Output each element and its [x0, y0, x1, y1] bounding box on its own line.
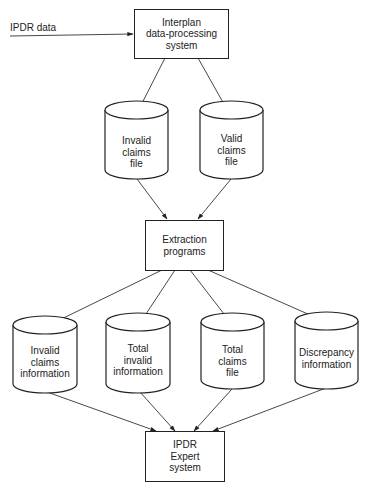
- cylinder-discrepancy-info-label: Discrepancy information: [292, 347, 361, 370]
- cylinder-total-claims-file-label: Total claims file: [201, 344, 264, 379]
- process-extraction: Extraction programs: [145, 220, 224, 271]
- edge-input-interplan: [10, 34, 133, 36]
- process-interplan-label: Interplan data-processing system: [146, 17, 217, 52]
- cylinder-invalid-claims-info-label: Invalid claims information: [11, 345, 79, 380]
- edge-invalid-file-extraction: [137, 179, 167, 219]
- edge-discrepancy-ipdr: [213, 388, 326, 431]
- edge-invalid-info-ipdr: [47, 392, 156, 431]
- process-ipdr-expert-label: IPDR Expert system: [169, 439, 201, 474]
- cylinder-total-invalid-info-label: Total invalid information: [104, 343, 172, 378]
- process-interplan: Interplan data-processing system: [134, 9, 229, 59]
- input-label: IPDR data: [10, 22, 56, 33]
- cylinder-valid-claims-file-label: Valid claims file: [200, 133, 263, 168]
- edge-total-claims-ipdr: [194, 389, 232, 431]
- edge-valid-file-extraction: [198, 179, 231, 219]
- process-ipdr-expert: IPDR Expert system: [145, 431, 225, 482]
- edge-total-invalid-ipdr: [140, 392, 175, 431]
- cylinder-invalid-claims-file-label: Invalid claims file: [105, 135, 168, 170]
- process-extraction-label: Extraction programs: [162, 234, 206, 257]
